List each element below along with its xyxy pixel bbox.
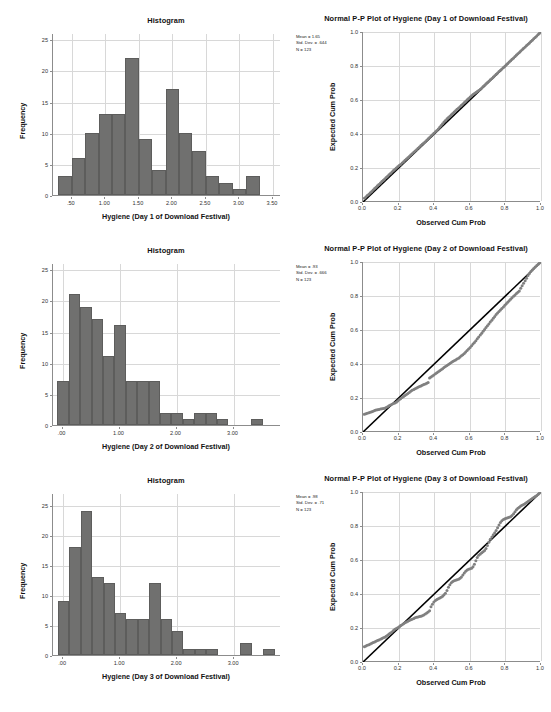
data-points xyxy=(363,262,541,416)
x-axis-tick-label: 0.4 xyxy=(429,435,437,441)
x-axis-tick-mark xyxy=(504,663,505,665)
x-axis-title: Observed Cum Prob xyxy=(362,218,540,227)
x-axis-tick-mark xyxy=(433,663,434,665)
x-axis-tick-label: 0.8 xyxy=(501,665,509,671)
reference-line xyxy=(363,492,541,662)
y-axis-tick-mark xyxy=(360,168,362,169)
y-axis-tick-mark xyxy=(360,398,362,399)
plot-area xyxy=(362,492,540,662)
x-axis-tick-label: 1.0 xyxy=(536,205,544,211)
y-axis-tick-label: 0.4 xyxy=(342,361,358,367)
y-axis-tick-label: 0.8 xyxy=(342,63,358,69)
x-axis-tick-label: 0.0 xyxy=(358,435,366,441)
x-axis-tick-mark xyxy=(504,203,505,205)
y-axis-tick-label: 0.6 xyxy=(342,97,358,103)
y-axis-tick-mark xyxy=(360,628,362,629)
x-axis-tick-label: 1.0 xyxy=(536,435,544,441)
pp-plot-canvas xyxy=(363,262,541,432)
x-axis-tick-mark xyxy=(362,663,363,665)
y-axis-tick-label: 0.6 xyxy=(342,327,358,333)
y-axis-tick-mark xyxy=(360,594,362,595)
y-axis-tick-mark xyxy=(360,134,362,135)
y-axis-tick-mark xyxy=(360,526,362,527)
x-axis-tick-mark xyxy=(469,433,470,435)
y-axis-tick-label: 0.2 xyxy=(342,625,358,631)
statistics-annotation: Mean = .98Std. Dev. = .71N = 123 xyxy=(296,494,348,513)
pp-plot-day2: Normal P-P Plot of Hygiene (Day 2 of Dow… xyxy=(0,240,551,468)
y-axis-tick-mark xyxy=(360,492,362,493)
data-points xyxy=(363,492,541,648)
chart-title: Normal P-P Plot of Hygiene (Day 2 of Dow… xyxy=(302,244,550,253)
stat-line-n: N = 123 xyxy=(296,507,348,513)
gridline-vertical xyxy=(541,492,542,661)
x-axis-title: Observed Cum Prob xyxy=(362,678,540,687)
x-axis-tick-mark xyxy=(398,203,399,205)
statistics-annotation: Mean = .93Std. Dev. = .666N = 123 xyxy=(296,264,348,283)
x-axis-tick-mark xyxy=(469,663,470,665)
x-axis-tick-mark xyxy=(469,203,470,205)
x-axis-tick-label: 0.2 xyxy=(394,665,402,671)
x-axis-tick-mark xyxy=(540,433,541,435)
plot-area xyxy=(362,262,540,432)
y-axis-tick-mark xyxy=(360,32,362,33)
x-axis-tick-mark xyxy=(398,663,399,665)
x-axis-tick-label: 0.4 xyxy=(429,665,437,671)
chart-title: Normal P-P Plot of Hygiene (Day 1 of Dow… xyxy=(302,14,550,23)
x-axis-tick-label: 0.2 xyxy=(394,435,402,441)
x-axis-tick-label: 0.2 xyxy=(394,205,402,211)
y-axis-tick-mark xyxy=(360,100,362,101)
y-axis-tick-mark xyxy=(360,66,362,67)
x-axis-tick-mark xyxy=(540,663,541,665)
x-axis-tick-mark xyxy=(362,203,363,205)
x-axis-tick-label: 0.8 xyxy=(501,435,509,441)
y-axis-tick-label: 0.4 xyxy=(342,591,358,597)
x-axis-tick-label: 1.0 xyxy=(536,665,544,671)
pp-plot-day1: Normal P-P Plot of Hygiene (Day 1 of Dow… xyxy=(0,10,551,238)
x-axis-tick-label: 0.4 xyxy=(429,205,437,211)
y-axis-tick-label: 0.4 xyxy=(342,131,358,137)
x-axis-tick-label: 0.0 xyxy=(358,205,366,211)
y-axis-tick-label: 0.2 xyxy=(342,395,358,401)
data-points xyxy=(363,32,541,200)
y-axis-tick-mark xyxy=(360,296,362,297)
stat-line-n: N = 123 xyxy=(296,277,348,283)
y-axis-title: Expected Cum Prob xyxy=(328,543,337,611)
x-axis-tick-mark xyxy=(433,203,434,205)
x-axis-tick-label: 0.6 xyxy=(465,665,473,671)
y-axis-tick-label: 0.0 xyxy=(342,659,358,665)
pp-plot-day3: Normal P-P Plot of Hygiene (Day 3 of Dow… xyxy=(0,470,551,698)
statistics-annotation: Mean = 1.65Std. Dev. = .644N = 123 xyxy=(296,34,348,53)
gridline-vertical xyxy=(541,32,542,201)
gridline-vertical xyxy=(541,262,542,431)
x-axis-tick-label: 0.0 xyxy=(358,665,366,671)
x-axis-tick-mark xyxy=(504,433,505,435)
plot-area xyxy=(362,32,540,202)
y-axis-tick-label: 0.0 xyxy=(342,429,358,435)
x-axis-tick-mark xyxy=(540,203,541,205)
y-axis-tick-label: 0.8 xyxy=(342,293,358,299)
y-axis-tick-mark xyxy=(360,364,362,365)
y-axis-tick-label: 0.2 xyxy=(342,165,358,171)
x-axis-tick-label: 0.6 xyxy=(465,435,473,441)
pp-plot-canvas xyxy=(363,32,541,202)
y-axis-tick-mark xyxy=(360,330,362,331)
chart-title: Normal P-P Plot of Hygiene (Day 3 of Dow… xyxy=(302,474,550,483)
x-axis-tick-mark xyxy=(433,433,434,435)
x-axis-tick-label: 0.8 xyxy=(501,205,509,211)
y-axis-title: Expected Cum Prob xyxy=(328,83,337,151)
x-axis-tick-mark xyxy=(398,433,399,435)
spss-output-page: Histogram0510152025.501.001.502.002.503.… xyxy=(0,0,551,712)
y-axis-tick-mark xyxy=(360,560,362,561)
y-axis-tick-label: 0.8 xyxy=(342,523,358,529)
x-axis-tick-mark xyxy=(362,433,363,435)
pp-plot-canvas xyxy=(363,492,541,662)
y-axis-tick-label: 0.6 xyxy=(342,557,358,563)
x-axis-tick-label: 0.6 xyxy=(465,205,473,211)
y-axis-tick-mark xyxy=(360,262,362,263)
stat-line-n: N = 123 xyxy=(296,47,348,53)
y-axis-tick-label: 0.0 xyxy=(342,199,358,205)
y-axis-title: Expected Cum Prob xyxy=(328,313,337,381)
x-axis-title: Observed Cum Prob xyxy=(362,448,540,457)
